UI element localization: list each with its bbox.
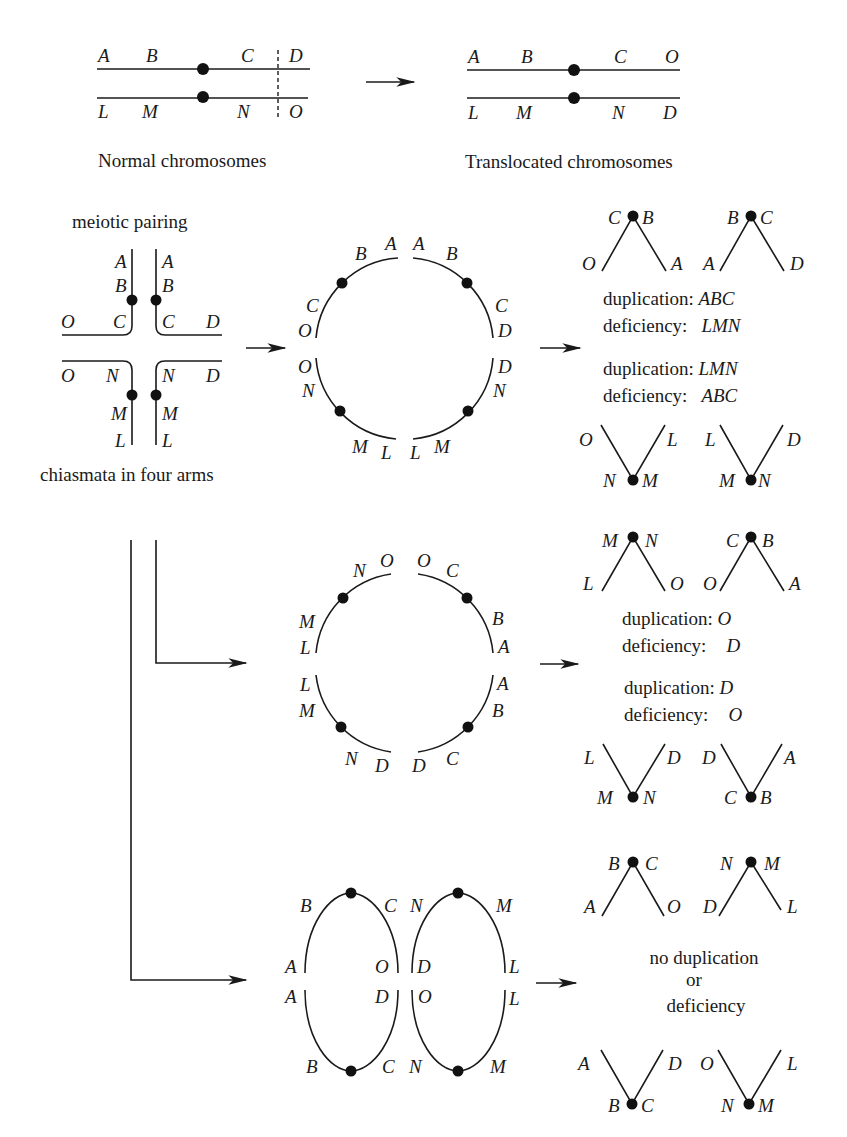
branch-arrow-alternate — [131, 540, 246, 980]
gene-label: M — [161, 403, 179, 424]
gene-label: O — [298, 356, 312, 377]
gene-label: C — [724, 787, 737, 808]
gene-label: O — [670, 573, 684, 594]
duplication-label: duplication: — [624, 677, 720, 698]
gene-label: B — [306, 1056, 318, 1077]
gene-label: O — [380, 550, 394, 571]
svg-text:duplication: ABC: duplication: ABC — [603, 288, 735, 309]
gene-label: L — [161, 430, 173, 451]
gene-label: L — [786, 896, 798, 917]
centromere-dot — [127, 295, 138, 306]
gene-label: N — [492, 380, 507, 401]
gene-label: D — [205, 311, 220, 332]
gene-label: M — [298, 700, 316, 721]
gene-label: A — [582, 896, 596, 917]
gene-label: O — [579, 429, 593, 450]
gene-label: O — [700, 1053, 714, 1074]
svg-text:deficiency:O: deficiency:O — [624, 704, 742, 725]
gene-label: A — [495, 673, 509, 694]
gene-label: N — [344, 748, 359, 769]
centromere-dot — [463, 406, 474, 417]
duplication-value: O — [718, 608, 732, 629]
gene-label: L — [508, 956, 520, 977]
gene-label: N — [409, 895, 424, 916]
gene-label: N — [352, 560, 367, 581]
deficiency-value: O — [728, 704, 742, 725]
centromere-dot — [462, 278, 473, 289]
gene-label: D — [662, 102, 677, 123]
gene-label: M — [718, 470, 736, 491]
gene-label: L — [299, 637, 311, 658]
gene-label: B — [762, 530, 774, 551]
gene-label: L — [299, 674, 311, 695]
translocation-diagram: A B C D L M N O Normal chromosomes A B C… — [0, 0, 847, 1137]
gene-label: B — [492, 700, 504, 721]
gene-label: N — [602, 470, 617, 491]
svg-text:duplication: LMN: duplication: LMN — [603, 358, 739, 379]
gene-label: A — [576, 1053, 590, 1074]
deficiency-label: deficiency: — [603, 385, 687, 406]
gene-label: A — [787, 573, 801, 594]
gene-label: M — [495, 895, 513, 916]
normal-chromosomes: A B C D L M N O Normal chromosomes — [96, 45, 310, 171]
gene-label: D — [416, 956, 431, 977]
gene-label: A — [669, 253, 683, 274]
gene-label: A — [411, 233, 425, 254]
deficiency-label: deficiency: — [622, 635, 706, 656]
gene-label: D — [288, 45, 303, 66]
centromere-dot — [151, 295, 162, 306]
gene-label: B — [608, 1095, 620, 1116]
gene-label: C — [726, 530, 739, 551]
gene-label: L — [467, 102, 479, 123]
gene-label: A — [383, 233, 397, 254]
gene-label: C — [446, 560, 459, 581]
pairing-title: meiotic pairing — [72, 211, 188, 232]
gene-label: D — [702, 896, 717, 917]
centromere-dot — [568, 92, 580, 104]
gene-label: N — [757, 470, 772, 491]
gene-label: C — [760, 207, 773, 228]
deficiency-label: deficiency: — [603, 315, 687, 336]
deficiency-value: LMN — [700, 315, 741, 336]
ring-3-pair: B C A O A D B C N M D L O L N M — [283, 888, 520, 1078]
gene-label: O — [61, 311, 75, 332]
duplication-label: duplication: — [603, 358, 699, 379]
gene-label: M — [433, 436, 451, 457]
gene-label: O — [375, 956, 389, 977]
gene-label: O — [665, 46, 679, 67]
svg-text:deficiency:LMN: deficiency:LMN — [603, 315, 742, 336]
gene-label: C — [446, 748, 459, 769]
meiotic-pairing-cross: meiotic pairing A B A B O C C D O N N D … — [40, 211, 222, 485]
gene-label: M — [351, 436, 369, 457]
gene-label: A — [496, 636, 510, 657]
gene-label: L — [97, 101, 109, 122]
gene-label: A — [782, 747, 796, 768]
gene-label: L — [704, 429, 716, 450]
gene-label: L — [114, 430, 126, 451]
gene-label: C — [614, 46, 627, 67]
gene-label: N — [105, 365, 120, 386]
gene-label: N — [161, 365, 176, 386]
gene-label: O — [289, 101, 303, 122]
gene-label: D — [667, 1053, 682, 1074]
gene-label: L — [409, 442, 421, 463]
result-3: B C A O N M D L no duplication or defici… — [576, 853, 798, 1116]
gene-label: B — [146, 45, 158, 66]
deficiency-value: D — [725, 635, 740, 656]
duplication-value: LMN — [698, 358, 739, 379]
gene-label: B — [760, 787, 772, 808]
branch-arrow-adjacent — [156, 540, 246, 663]
gene-label: M — [641, 470, 659, 491]
gene-label: L — [380, 442, 392, 463]
gene-label: C — [162, 311, 175, 332]
gene-label: D — [786, 429, 801, 450]
gene-label: B — [446, 243, 458, 264]
pairing-caption: chiasmata in four arms — [40, 464, 214, 485]
gene-label: C — [608, 207, 621, 228]
gene-label: O — [298, 320, 312, 341]
gene-label: B — [492, 608, 504, 629]
gene-label: D — [374, 986, 389, 1007]
duplication-label: duplication: — [603, 288, 699, 309]
gene-label: D — [374, 755, 389, 776]
gene-label: D — [497, 356, 512, 377]
